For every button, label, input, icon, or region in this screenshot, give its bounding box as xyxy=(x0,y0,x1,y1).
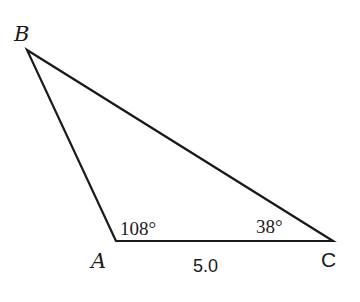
triangle-shape xyxy=(0,0,360,302)
vertex-label-a: A xyxy=(91,251,106,272)
side-ac-length: 5.0 xyxy=(193,257,218,275)
angle-c-measure: 38° xyxy=(256,217,283,236)
angle-a-measure: 108° xyxy=(120,219,156,238)
triangle-diagram: B A C 108° 38° 5.0 xyxy=(0,0,360,302)
vertex-label-b: B xyxy=(14,24,29,45)
vertex-label-c: C xyxy=(321,249,336,270)
